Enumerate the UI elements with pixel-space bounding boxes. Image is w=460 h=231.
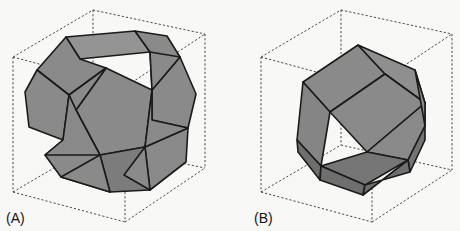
polyhedra-figure: (A) [0, 0, 460, 231]
panel-b-label: (B) [254, 210, 273, 226]
panel-a-label: (A) [6, 210, 25, 226]
figure-canvas: (A) [0, 0, 460, 231]
